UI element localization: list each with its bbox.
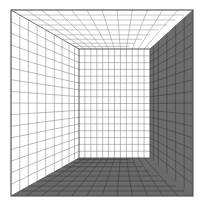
perspective-room-diagram: [0, 0, 205, 211]
figure-canvas: [0, 0, 205, 211]
